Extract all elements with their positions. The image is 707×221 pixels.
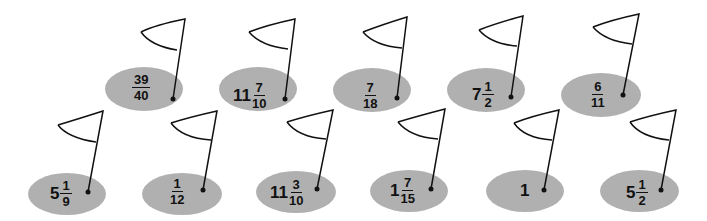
fraction-label: 7 12 [472, 80, 494, 109]
fraction-label: 3940 [131, 73, 150, 102]
flag-icon [486, 110, 606, 220]
golf-hole-top-3: 718 [333, 13, 453, 123]
flag-icon [600, 108, 707, 218]
golf-hole-bottom-4: 1 715 [370, 112, 490, 221]
golf-hole-bottom-3: 11 310 [256, 113, 376, 221]
fraction-label: 11 710 [233, 81, 266, 110]
fraction-label: 718 [362, 81, 377, 110]
flag-icon [561, 10, 681, 120]
fraction-label: 5 19 [50, 179, 72, 208]
fraction-label: 1 [520, 182, 530, 199]
golf-hole-top-4: 7 12 [447, 13, 567, 123]
golf-hole-bottom-6: 5 12 [600, 108, 707, 218]
flag-icon [447, 13, 567, 123]
golf-hole-top-2: 11 710 [219, 15, 339, 125]
fraction-label: 5 12 [626, 178, 648, 207]
fraction-label: 611 [590, 80, 605, 109]
golf-hole-top-5: 611 [561, 10, 681, 120]
golf-hole-bottom-1: 5 19 [28, 113, 148, 221]
flag-icon [333, 13, 453, 123]
fraction-label: 1 715 [390, 176, 415, 205]
flag-icon [105, 15, 225, 125]
flag-icon [28, 113, 148, 221]
flag-icon [370, 112, 490, 221]
flag-icon [142, 113, 262, 221]
golf-hole-bottom-5: 1 [486, 110, 606, 220]
fraction-label: 11 310 [270, 178, 303, 207]
golf-hole-top-1: 3940 [105, 15, 225, 125]
golf-hole-bottom-2: 112 [142, 113, 262, 221]
fraction-label: 112 [169, 177, 184, 206]
